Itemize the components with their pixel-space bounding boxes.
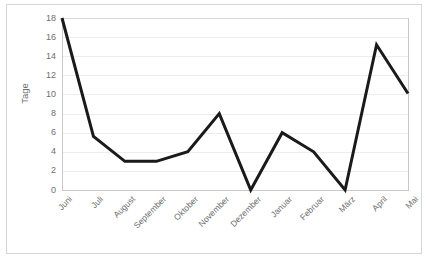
y-tick-label-6: 6 xyxy=(51,128,56,137)
y-tick-label-4: 4 xyxy=(51,147,56,156)
y-tick-label-18: 18 xyxy=(46,14,56,23)
y-tick-label-0: 0 xyxy=(51,186,56,195)
plot-border-right xyxy=(408,18,409,190)
line-series-layer xyxy=(62,18,408,190)
y-tick-label-14: 14 xyxy=(46,52,56,61)
x-axis-line xyxy=(62,190,409,191)
y-tick-label-16: 16 xyxy=(46,33,56,42)
line-series-tage xyxy=(62,18,408,190)
chart-container: Tage 024681012141618 JuniJuliAugustSepte… xyxy=(0,0,429,260)
y-tick-label-10: 10 xyxy=(46,90,56,99)
y-tick-label-12: 12 xyxy=(46,71,56,80)
y-axis-tick-labels: 024681012141618 xyxy=(28,0,56,260)
y-tick-label-2: 2 xyxy=(51,166,56,175)
y-tick-label-8: 8 xyxy=(51,109,56,118)
